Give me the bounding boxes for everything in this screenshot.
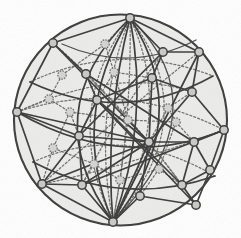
paper-grain-overlay	[0, 0, 241, 238]
sphere-graph-figure	[0, 0, 241, 238]
figure-root	[0, 0, 241, 238]
